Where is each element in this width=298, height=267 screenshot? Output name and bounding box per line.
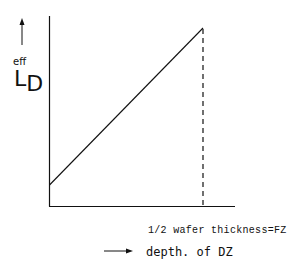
data-line <box>50 28 204 185</box>
x-arrow-icon <box>104 249 133 254</box>
y-label-symbol: L <box>14 66 26 91</box>
y-arrow-icon <box>20 18 25 45</box>
x-axis-label: depth. of DZ <box>146 245 233 259</box>
y-label-subscript: D <box>26 71 43 96</box>
reference-annotation: 1/2 wafer thickness=FZ <box>148 225 287 236</box>
y-axis-label: LD <box>14 66 43 91</box>
